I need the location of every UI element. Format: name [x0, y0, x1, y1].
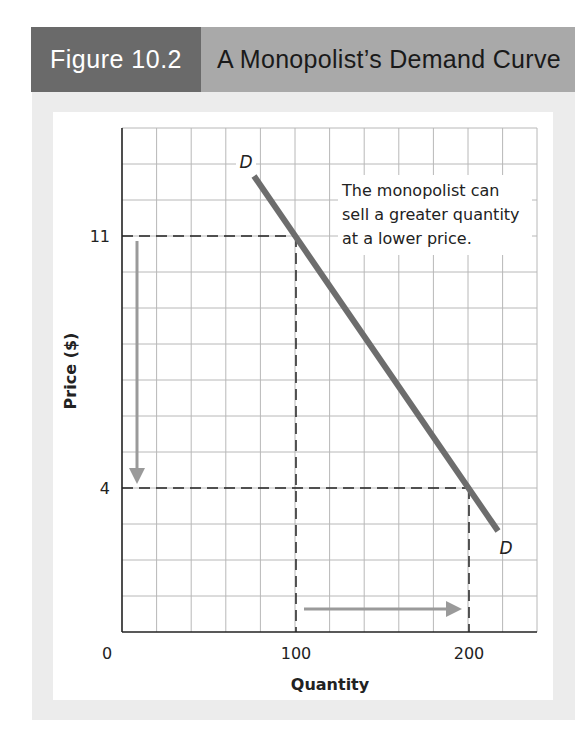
x-tick-200: 200 [454, 644, 485, 663]
x-tick-0: 0 [102, 644, 112, 663]
price-down-arrow [129, 241, 145, 484]
x-tick-100: 100 [281, 644, 312, 663]
curve-label-bottom: D [499, 538, 512, 558]
x-axis-label: Quantity [291, 675, 370, 694]
annotation-line-3: at a lower price. [342, 229, 472, 248]
y-axis-label: Price ($) [61, 333, 80, 410]
demand-chart: D D The monopolist can sell a greater qu… [0, 0, 579, 736]
annotation-line-1: The monopolist can [341, 181, 499, 200]
y-tick-4: 4 [100, 479, 110, 498]
y-tick-11: 11 [90, 227, 110, 246]
quantity-right-arrow [304, 601, 462, 617]
annotation-line-2: sell a greater quantity [342, 205, 520, 224]
curve-label-top: D [239, 152, 252, 172]
